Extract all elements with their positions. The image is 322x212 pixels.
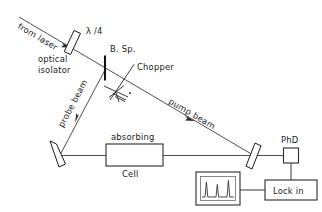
absorbing-label: absorbing xyxy=(111,132,154,142)
chopper-label: Chopper xyxy=(137,62,174,72)
optical-isolator-label-line1: optical xyxy=(38,54,68,64)
photodiode[interactable] xyxy=(284,148,299,163)
absorption-cell[interactable] xyxy=(106,144,163,166)
beam-splitter-label: B. Sp. xyxy=(110,44,136,54)
quarter-wave-plate[interactable] xyxy=(64,31,80,55)
left-mirror[interactable] xyxy=(50,141,66,167)
optical-isolator-label-line2: isolator xyxy=(38,65,71,75)
lock-in-label: Lock in xyxy=(273,186,304,196)
cell-label: Cell xyxy=(122,169,138,179)
quarter-wave-plate-label: λ /4 xyxy=(86,26,103,36)
optical-setup-diagram: λ /4 optical isolator from laser B. Sp. … xyxy=(0,0,322,212)
pump-beam-label: pump beam xyxy=(167,96,217,131)
right-mirror[interactable] xyxy=(246,143,261,169)
oscilloscope[interactable] xyxy=(196,172,240,205)
photodiode-label: PhD xyxy=(281,135,298,145)
probe-beam-label: probe beam xyxy=(56,78,90,129)
